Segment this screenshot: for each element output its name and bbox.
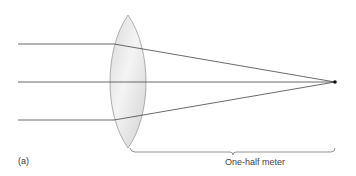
converging-lens <box>110 15 146 148</box>
bottom-ray <box>18 82 335 120</box>
distance-label: One-half meter <box>190 157 320 167</box>
panel-label: (a) <box>18 156 29 166</box>
lens-diagram <box>0 0 356 176</box>
top-ray <box>18 44 335 82</box>
focal-point <box>333 80 337 84</box>
distance-bracket <box>130 148 335 155</box>
